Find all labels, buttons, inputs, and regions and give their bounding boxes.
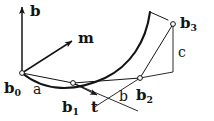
control-point-b0 bbox=[20, 71, 25, 76]
point-label-b0-base: b bbox=[4, 79, 15, 97]
construction-line-1 bbox=[73, 83, 138, 111]
point-label-b3-base: b bbox=[180, 14, 191, 32]
point-label-b2-sub: 2 bbox=[147, 94, 153, 105]
curve-end-tick bbox=[150, 12, 168, 20]
segment-label-c: c bbox=[178, 45, 186, 59]
point-label-b3: b3 bbox=[180, 16, 197, 31]
control-point-b1 bbox=[71, 81, 76, 86]
point-label-b1: b1 bbox=[62, 100, 79, 115]
point-label-b2: b2 bbox=[136, 88, 153, 103]
control-point-b2 bbox=[138, 76, 143, 81]
segment-label-b: b bbox=[119, 89, 128, 103]
bezier-curve-diagram: b m t b0 b1 b2 b3 a b c bbox=[0, 0, 214, 121]
construction-line-2 bbox=[93, 78, 140, 108]
control-point-b3 bbox=[171, 22, 176, 27]
point-label-b0-sub: 0 bbox=[15, 87, 21, 98]
point-label-b3-sub: 3 bbox=[191, 22, 197, 33]
point-label-b1-sub: 1 bbox=[73, 106, 79, 117]
vector-t-label: t bbox=[91, 100, 98, 115]
vector-m-label: m bbox=[78, 31, 94, 46]
vector-b-label: b bbox=[30, 4, 41, 19]
point-label-b2-base: b bbox=[136, 86, 147, 104]
point-label-b0: b0 bbox=[4, 81, 21, 96]
control-polygon bbox=[22, 24, 173, 83]
segment-label-a: a bbox=[33, 82, 41, 96]
vector-m-arrow bbox=[22, 41, 72, 73]
point-label-b1-base: b bbox=[62, 98, 73, 116]
